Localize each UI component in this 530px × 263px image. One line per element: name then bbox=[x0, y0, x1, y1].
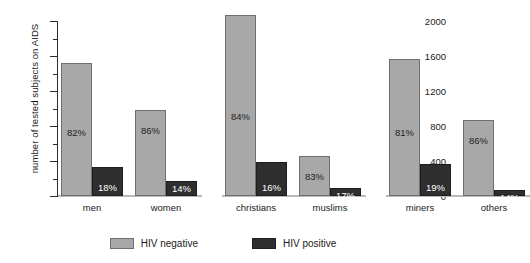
legend-label-hiv-positive: HIV positive bbox=[283, 238, 336, 249]
y-minor-tick-1800 bbox=[53, 39, 58, 40]
category-label-miners: miners bbox=[406, 202, 435, 213]
bar-label-hiv-positive-miners: 19% bbox=[421, 182, 450, 193]
bar-hiv-positive-muslims: 17% bbox=[330, 188, 361, 196]
bar-label-hiv-negative-others: 86% bbox=[464, 135, 493, 146]
bar-label-hiv-negative-miners: 81% bbox=[390, 127, 419, 138]
legend-swatch-hiv-positive bbox=[252, 238, 276, 249]
bar-hiv-negative-women: 86% bbox=[135, 110, 166, 196]
bar-hiv-positive-miners: 19% bbox=[420, 164, 451, 196]
bar-label-hiv-negative-muslims: 83% bbox=[300, 171, 329, 182]
category-label-christians: christians bbox=[236, 202, 276, 213]
y-axis-line bbox=[57, 21, 58, 197]
bar-hiv-negative-men: 82% bbox=[61, 63, 92, 196]
bar-label-hiv-negative-men: 82% bbox=[62, 127, 91, 138]
y-tick-0 bbox=[50, 196, 57, 197]
bar-hiv-positive-women: 14% bbox=[166, 181, 197, 196]
legend-item-hiv-negative: HIV negative bbox=[110, 238, 198, 249]
bar-hiv-negative-miners: 81% bbox=[389, 59, 420, 196]
bar-label-hiv-positive-muslims: 17% bbox=[331, 190, 360, 201]
category-label-women: women bbox=[151, 202, 182, 213]
y-minor-tick-1400 bbox=[53, 74, 58, 75]
bar-label-hiv-positive-men: 18% bbox=[93, 182, 122, 193]
category-label-men: men bbox=[83, 202, 101, 213]
bar-label-hiv-positive-christians: 16% bbox=[257, 182, 286, 193]
y-tick-1200 bbox=[50, 91, 57, 92]
bar-hiv-negative-others: 86% bbox=[463, 120, 494, 196]
category-label-muslims: muslims bbox=[313, 202, 348, 213]
y-minor-tick-200 bbox=[53, 179, 58, 180]
bar-hiv-positive-others: 14% bbox=[494, 190, 525, 196]
legend-item-hiv-positive: HIV positive bbox=[252, 238, 336, 249]
y-minor-tick-1000 bbox=[53, 109, 58, 110]
y-axis-title: number of tested subjects on AIDS bbox=[29, 0, 40, 199]
bar-label-hiv-positive-women: 14% bbox=[167, 183, 196, 194]
bar-label-hiv-negative-christians: 84% bbox=[226, 111, 255, 122]
legend-label-hiv-negative: HIV negative bbox=[141, 238, 198, 249]
category-label-others: others bbox=[481, 202, 507, 213]
y-minor-tick-600 bbox=[53, 144, 58, 145]
bar-hiv-positive-men: 18% bbox=[92, 167, 123, 196]
bar-hiv-negative-christians: 84% bbox=[225, 15, 256, 196]
legend-swatch-hiv-negative bbox=[110, 238, 134, 249]
bar-label-hiv-negative-women: 86% bbox=[136, 125, 165, 136]
bar-hiv-negative-muslims: 83% bbox=[299, 156, 330, 196]
bar-hiv-positive-christians: 16% bbox=[256, 162, 287, 196]
y-tick-400 bbox=[50, 161, 57, 162]
y-tick-1600 bbox=[50, 56, 57, 57]
y-tick-800 bbox=[50, 126, 57, 127]
y-tick-label-2000: 2000 bbox=[410, 16, 446, 27]
y-tick-2000 bbox=[50, 21, 57, 22]
chart-legend: HIV negative HIV positive bbox=[0, 238, 446, 249]
